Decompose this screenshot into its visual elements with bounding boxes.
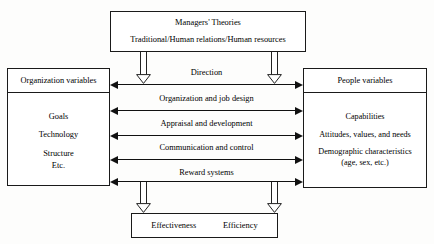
outcome-efficiency: Efficiency	[223, 221, 258, 231]
arrow-shaft	[116, 159, 297, 160]
connection-label-communication-and-control: Communication and control	[110, 143, 303, 152]
outcomes-box: Effectiveness Efficiency	[131, 213, 278, 238]
people-variable-item: Demographic characteristics	[318, 147, 411, 156]
arrow-shaft	[116, 135, 297, 136]
flow-arrow-rewards-to-outcomes-left	[136, 182, 151, 213]
hollow-arrow-head-down-icon	[267, 74, 282, 84]
connection-label-reward-systems: Reward systems	[110, 168, 303, 177]
people-variables-header: People variables	[304, 69, 426, 93]
arrow-shaft	[116, 84, 297, 85]
arrow-shaft	[271, 52, 278, 75]
arrow-head-right-icon	[295, 81, 303, 89]
organization-variable-item: Structure	[43, 149, 74, 159]
arrow-head-left-icon	[110, 107, 118, 115]
people-variable-item: Attitudes, values, and needs	[319, 130, 411, 139]
managers-theories-subtitle: Traditional/Human relations/Human resour…	[130, 35, 286, 45]
connection-label-appraisal-and-development: Appraisal and development	[110, 119, 303, 128]
managers-theories-title: Managers' Theories	[175, 18, 241, 28]
arrow-head-right-icon	[295, 178, 303, 186]
arrow-shaft	[271, 182, 278, 204]
arrow-head-right-icon	[295, 132, 303, 140]
flow-arrow-rewards-to-outcomes-right	[267, 182, 282, 213]
organization-variables-list: Goals Technology Structure Etc.	[8, 93, 109, 185]
arrow-shaft	[140, 52, 147, 75]
arrow-head-left-icon	[110, 132, 118, 140]
hollow-arrow-head-down-icon	[136, 203, 151, 213]
people-variables-box: People variables Capabilities Attitudes,…	[303, 68, 427, 188]
organization-variable-item: Etc.	[52, 161, 65, 171]
hollow-arrow-head-down-icon	[136, 74, 151, 84]
connection-arrow-organization-and-job-design	[110, 106, 303, 115]
organization-variable-item: Goals	[49, 112, 69, 122]
connection-arrow-communication-and-control	[110, 155, 303, 164]
people-variable-item-detail: (age, sex, etc.)	[341, 158, 389, 167]
people-variables-list: Capabilities Attitudes, values, and need…	[304, 93, 426, 187]
diagram-canvas: Managers' Theories Traditional/Human rel…	[0, 0, 434, 244]
managers-theories-box: Managers' Theories Traditional/Human rel…	[110, 11, 306, 52]
hollow-arrow-head-down-icon	[267, 203, 282, 213]
flow-arrow-theories-to-direction-left	[136, 52, 151, 84]
connection-label-organization-and-job-design: Organization and job design	[110, 94, 303, 103]
arrow-head-left-icon	[110, 81, 118, 89]
arrow-shaft	[140, 182, 147, 204]
people-variable-item: Capabilities	[345, 112, 384, 121]
arrow-head-left-icon	[110, 156, 118, 164]
organization-variables-header: Organization variables	[8, 69, 109, 93]
arrow-shaft	[116, 110, 297, 111]
arrow-head-right-icon	[295, 156, 303, 164]
arrow-head-left-icon	[110, 178, 118, 186]
connection-arrow-appraisal-and-development	[110, 131, 303, 140]
organization-variable-item: Technology	[39, 130, 78, 140]
flow-arrow-theories-to-direction-right	[267, 52, 282, 84]
organization-variables-box: Organization variables Goals Technology …	[7, 68, 110, 186]
arrow-head-right-icon	[295, 107, 303, 115]
outcome-effectiveness: Effectiveness	[151, 221, 196, 231]
